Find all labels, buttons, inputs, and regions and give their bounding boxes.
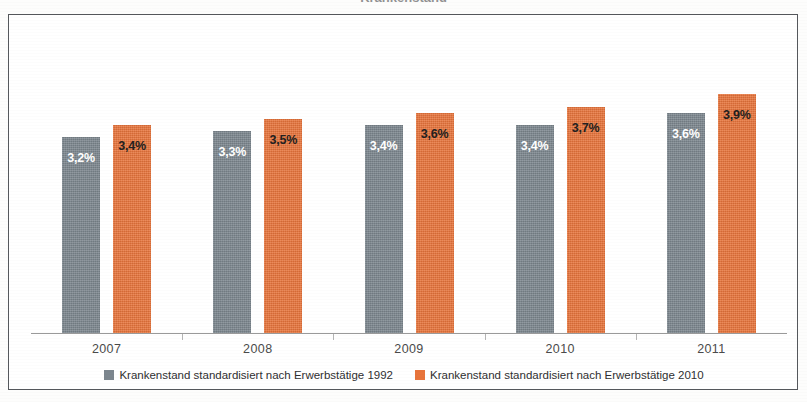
legend-swatch-icon bbox=[415, 370, 425, 380]
chart-frame: 3,2%3,4%20073,3%3,5%20083,4%3,6%20093,4%… bbox=[8, 14, 798, 390]
bar-2010-series-1[interactable]: 3,4% bbox=[516, 125, 554, 333]
legend-swatch-icon bbox=[104, 370, 114, 380]
bar-value-label: 3,3% bbox=[218, 145, 246, 159]
bar-value-label: 3,5% bbox=[269, 133, 297, 147]
category-label-2007: 2007 bbox=[47, 342, 167, 356]
bar-2011-series-1[interactable]: 3,6% bbox=[667, 113, 705, 333]
bar-2007-series-1[interactable]: 3,2% bbox=[62, 137, 100, 333]
bar-2008-series-1[interactable]: 3,3% bbox=[213, 131, 251, 333]
bar-group: 3,4%3,7% bbox=[516, 27, 605, 333]
bar-group: 3,2%3,4% bbox=[62, 27, 151, 333]
scanned-page: Krankenstand 3,2%3,4%20073,3%3,5%20083,4… bbox=[0, 0, 807, 402]
bar-2009-series-1[interactable]: 3,4% bbox=[365, 125, 403, 333]
bar-value-label: 3,7% bbox=[572, 121, 600, 135]
category-axis-line bbox=[31, 333, 787, 334]
axis-tick bbox=[182, 334, 183, 340]
legend-item-1[interactable]: Krankenstand standardisiert nach Erwerbs… bbox=[104, 369, 393, 381]
category-label-2009: 2009 bbox=[349, 342, 469, 356]
bar-value-label: 3,6% bbox=[672, 127, 700, 141]
legend-item-label: Krankenstand standardisiert nach Erwerbs… bbox=[119, 369, 393, 381]
legend-item-label: Krankenstand standardisiert nach Erwerbs… bbox=[430, 369, 704, 381]
category-label-2008: 2008 bbox=[198, 342, 318, 356]
category-label-2011: 2011 bbox=[651, 342, 771, 356]
legend-item-2[interactable]: Krankenstand standardisiert nach Erwerbs… bbox=[415, 369, 704, 381]
bar-2010-series-2[interactable]: 3,7% bbox=[567, 107, 605, 333]
bar-value-label: 3,6% bbox=[421, 127, 449, 141]
bar-value-label: 3,2% bbox=[67, 151, 95, 165]
bar-value-label: 3,4% bbox=[521, 139, 549, 153]
bar-group: 3,4%3,6% bbox=[365, 27, 454, 333]
bar-2011-series-2[interactable]: 3,9% bbox=[718, 94, 756, 333]
axis-tick bbox=[333, 334, 334, 340]
category-label-2010: 2010 bbox=[500, 342, 620, 356]
chart-legend: Krankenstand standardisiert nach Erwerbs… bbox=[9, 369, 799, 381]
axis-tick bbox=[485, 334, 486, 340]
bar-value-label: 3,4% bbox=[118, 139, 146, 153]
bar-value-label: 3,4% bbox=[370, 139, 398, 153]
bar-value-label: 3,9% bbox=[723, 108, 751, 122]
axis-tick bbox=[636, 334, 637, 340]
bar-group: 3,6%3,9% bbox=[667, 27, 756, 333]
bar-2007-series-2[interactable]: 3,4% bbox=[113, 125, 151, 333]
bar-group: 3,3%3,5% bbox=[213, 27, 302, 333]
bar-2009-series-2[interactable]: 3,6% bbox=[416, 113, 454, 333]
bar-2008-series-2[interactable]: 3,5% bbox=[264, 119, 302, 333]
cut-off-title-remnant: Krankenstand bbox=[0, 0, 807, 10]
cut-off-title-text: Krankenstand bbox=[360, 0, 447, 4]
